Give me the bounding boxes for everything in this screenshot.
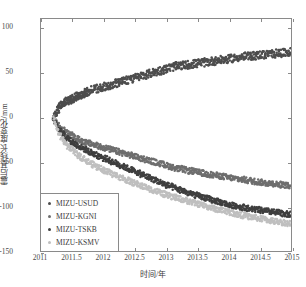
figure: 震后基线长度变化/mm 时间/年 MIZU-USUDMIZU-KGNIMIZU-…	[0, 0, 306, 287]
legend-item-label: MIZU-KSMV	[56, 239, 99, 247]
x-tick-label: 2011.5	[61, 254, 81, 262]
y-tick-label: -50	[0, 158, 13, 166]
legend-item-label: MIZU-USUD	[56, 200, 98, 208]
y-tick-label: 0	[0, 113, 13, 121]
x-tick-label: 2014	[222, 254, 237, 262]
y-tick-mark	[41, 28, 44, 29]
y-tick-label: 50	[0, 68, 13, 76]
x-tick-label: 2013.5	[187, 254, 208, 262]
legend: MIZU-USUDMIZU-KGNIMIZU-TSKBMIZU-KSMV	[40, 193, 119, 252]
x-tick-mark	[230, 248, 231, 251]
x-tick-mark	[135, 248, 136, 251]
y-tick-label: -100	[0, 203, 13, 211]
y-tick-label: -150	[0, 248, 13, 256]
x-tick-mark	[104, 19, 105, 22]
x-axis-label: 时间/年	[0, 268, 306, 279]
legend-item-mizu-usud[interactable]: MIZU-USUD	[45, 197, 118, 210]
y-tick-mark	[288, 208, 291, 209]
y-tick-mark	[41, 73, 44, 74]
legend-item-mizu-ksmv[interactable]: MIZU-KSMV	[45, 236, 118, 249]
y-tick-mark	[41, 118, 44, 119]
x-tick-mark	[167, 248, 168, 251]
x-tick-label: 2013	[159, 254, 174, 262]
x-tick-mark	[293, 248, 294, 251]
x-tick-mark	[293, 19, 294, 22]
x-tick-label: 2012.5	[124, 254, 145, 262]
x-tick-mark	[198, 248, 199, 251]
y-tick-mark	[288, 163, 291, 164]
y-tick-mark	[288, 28, 291, 29]
x-tick-label: 2015	[285, 254, 300, 262]
x-tick-mark	[261, 19, 262, 22]
legend-item-mizu-kgni[interactable]: MIZU-KGNI	[45, 210, 118, 223]
x-tick-mark	[198, 19, 199, 22]
y-tick-mark	[288, 73, 291, 74]
legend-marker-icon	[48, 241, 51, 244]
x-tick-mark	[135, 19, 136, 22]
y-tick-mark	[288, 118, 291, 119]
x-tick-mark	[41, 19, 42, 22]
x-tick-mark	[167, 19, 168, 22]
legend-marker-icon	[48, 215, 51, 218]
legend-item-label: MIZU-TSKB	[56, 226, 97, 234]
series-mizu-usud	[52, 47, 291, 121]
x-axis-label-text: 时间/年	[140, 270, 166, 279]
legend-marker-icon	[48, 228, 51, 231]
x-tick-label: 2012	[96, 254, 111, 262]
y-tick-label: 100	[0, 23, 13, 31]
legend-item-label: MIZU-KGNI	[56, 213, 96, 221]
legend-item-mizu-tskb[interactable]: MIZU-TSKB	[45, 223, 118, 236]
x-tick-mark	[72, 19, 73, 22]
x-tick-label: 2011	[33, 254, 48, 262]
y-tick-mark	[41, 163, 44, 164]
x-tick-mark	[230, 19, 231, 22]
legend-marker-icon	[48, 202, 51, 205]
x-tick-label: 2014.5	[250, 254, 271, 262]
x-tick-mark	[261, 248, 262, 251]
